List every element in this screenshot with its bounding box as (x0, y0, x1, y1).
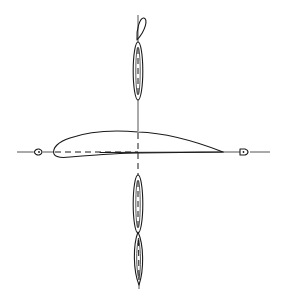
right-marker-dot (243, 151, 245, 153)
airfoil-diagram (0, 0, 284, 304)
lower-bottom-lobe-axis (139, 240, 140, 280)
left-marker-dot (38, 151, 40, 153)
left-marker-icon (34, 149, 42, 155)
diagram-svg (0, 0, 284, 304)
